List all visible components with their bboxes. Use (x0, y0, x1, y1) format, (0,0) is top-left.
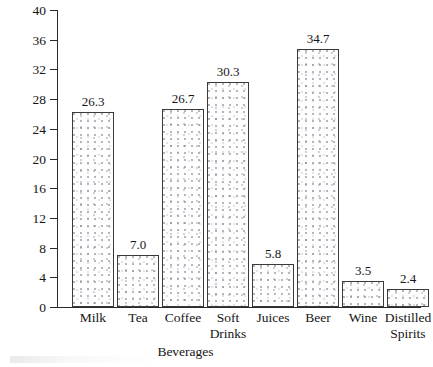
bar-value-label: 30.3 (217, 65, 240, 78)
y-tick: 40 (50, 10, 57, 11)
bar-value-label: 2.4 (400, 272, 416, 285)
x-tick-label-line: Drinks (195, 326, 261, 342)
bar-value-label: 26.7 (172, 92, 195, 105)
y-tick-label: 16 (33, 182, 47, 196)
y-tick-label: 20 (33, 153, 47, 167)
y-axis-title: Gallons Consumed (0, 55, 3, 158)
y-tick-label: 4 (39, 272, 46, 286)
y-tick-label: 40 (33, 4, 47, 18)
y-tick: 24 (50, 129, 57, 130)
bar-group: 2.4 (387, 10, 429, 307)
y-tick-label: 28 (33, 93, 47, 107)
bar (387, 289, 429, 307)
y-tick-label: 24 (33, 123, 47, 137)
bars-layer: 26.37.026.730.35.834.73.52.4 (57, 10, 421, 307)
scan-artifact (10, 356, 160, 363)
bar (72, 112, 114, 307)
bar (162, 109, 204, 307)
x-tick-label-line: Distilled (375, 310, 433, 326)
bar-chart: Gallons Consumed 0481216202428323640 26.… (0, 0, 433, 367)
bar-group: 5.8 (252, 10, 294, 307)
y-tick: 20 (50, 159, 57, 160)
y-tick: 8 (50, 248, 57, 249)
x-tick-label: DistilledSpirits (375, 310, 433, 341)
bar-value-label: 7.0 (130, 238, 146, 251)
y-tick: 32 (50, 69, 57, 70)
bar-value-label: 26.3 (82, 95, 105, 108)
bar (342, 281, 384, 307)
y-tick: 12 (50, 218, 57, 219)
bar-group: 26.7 (162, 10, 204, 307)
x-axis-line (57, 307, 421, 308)
bar-group: 3.5 (342, 10, 384, 307)
y-tick-label: 36 (33, 34, 47, 48)
bar-value-label: 3.5 (355, 264, 371, 277)
y-tick: 36 (50, 40, 57, 41)
bar-value-label: 34.7 (307, 32, 330, 45)
bar (297, 49, 339, 307)
y-tick-label: 12 (33, 212, 47, 226)
bar-group: 7.0 (117, 10, 159, 307)
bar-group: 30.3 (207, 10, 249, 307)
bar (117, 255, 159, 307)
y-tick: 0 (50, 307, 57, 308)
y-tick-label: 0 (39, 301, 46, 315)
y-tick-label: 32 (33, 64, 47, 78)
y-tick: 4 (50, 277, 57, 278)
bar-group: 26.3 (72, 10, 114, 307)
y-tick: 28 (50, 99, 57, 100)
bar (252, 264, 294, 307)
bar-value-label: 5.8 (265, 247, 281, 260)
bar-group: 34.7 (297, 10, 339, 307)
x-tick-label-line: Spirits (375, 326, 433, 342)
bar (207, 82, 249, 307)
y-tick: 16 (50, 188, 57, 189)
y-tick-label: 8 (39, 242, 46, 256)
